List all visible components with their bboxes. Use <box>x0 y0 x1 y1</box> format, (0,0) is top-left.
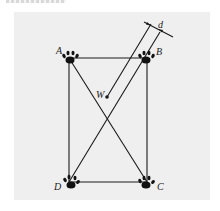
label-B: B <box>156 46 162 57</box>
diagonal-DB-extended <box>69 32 160 182</box>
label-C: C <box>157 181 164 192</box>
label-D: D <box>53 181 62 192</box>
label-A: A <box>55 45 63 56</box>
table-legs-diagram: A B C D W d <box>0 0 220 211</box>
center-of-mass-point <box>105 95 109 99</box>
label-W: W <box>96 89 106 100</box>
label-d: d <box>158 19 164 30</box>
paw-print-icon-A <box>62 51 80 64</box>
paw-print-icon-B <box>138 51 156 64</box>
